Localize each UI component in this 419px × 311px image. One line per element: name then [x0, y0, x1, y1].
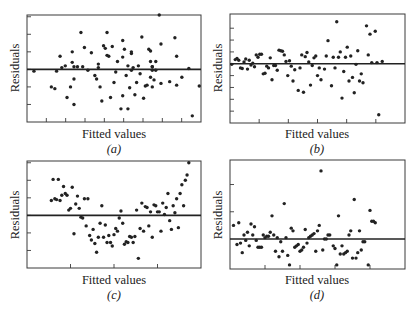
data-point [185, 173, 188, 176]
data-point [97, 236, 100, 239]
data-point [267, 235, 270, 238]
data-point [109, 96, 112, 99]
data-point [112, 233, 115, 236]
data-point [368, 209, 371, 212]
data-point [283, 53, 286, 56]
panel-a-ylabel: Residuals [8, 44, 22, 93]
plot-frame [27, 15, 201, 122]
data-point [377, 113, 380, 116]
data-point [175, 197, 178, 200]
data-point [297, 89, 300, 92]
plot-frame [230, 160, 405, 269]
data-point [360, 72, 363, 75]
data-point [51, 178, 54, 181]
data-point [339, 50, 342, 53]
data-point [340, 244, 343, 247]
data-point [319, 78, 322, 81]
data-point [104, 223, 107, 226]
data-point [281, 250, 284, 253]
data-point [107, 55, 110, 58]
data-point [149, 49, 152, 52]
data-point [64, 64, 67, 67]
data-point [133, 235, 136, 238]
data-point [237, 59, 240, 62]
data-point [151, 65, 154, 68]
data-point [321, 248, 324, 251]
data-point [50, 199, 53, 202]
data-point [178, 192, 181, 195]
panel-c-caption: (c) [107, 288, 121, 302]
data-point [242, 60, 245, 63]
data-point [71, 186, 74, 189]
panel-c: Residuals Fitted values (c) [8, 161, 201, 302]
data-point [249, 222, 252, 225]
data-point [119, 209, 122, 212]
data-point [244, 239, 247, 242]
data-point [131, 241, 134, 244]
data-point [263, 72, 266, 75]
data-point [302, 246, 305, 249]
data-point [351, 76, 354, 79]
data-point [337, 214, 340, 217]
data-point [76, 194, 79, 197]
data-point [288, 59, 291, 62]
panel-d-caption: (d) [310, 288, 325, 302]
panel-d: Residuals Fitted values (d) [211, 160, 405, 302]
data-point [175, 83, 178, 86]
data-point [276, 69, 279, 72]
data-point [304, 228, 307, 231]
data-point [83, 197, 86, 200]
data-point [95, 251, 98, 254]
data-point [124, 74, 127, 77]
data-point [180, 76, 183, 79]
data-point [65, 96, 68, 99]
data-point [330, 84, 333, 87]
data-point [138, 227, 141, 230]
data-point [102, 236, 105, 239]
data-point [286, 254, 289, 257]
data-point [191, 114, 194, 117]
data-point [154, 69, 157, 72]
data-point [138, 72, 141, 75]
data-point [246, 231, 249, 234]
data-point [159, 82, 162, 85]
data-point [368, 32, 371, 35]
data-point [105, 31, 108, 34]
data-point [361, 81, 364, 84]
data-point [112, 81, 115, 84]
data-point [147, 224, 150, 227]
data-point [284, 60, 287, 63]
data-point [326, 39, 329, 42]
data-point [363, 240, 366, 243]
data-point [347, 233, 350, 236]
data-point [163, 213, 166, 216]
data-point [374, 29, 377, 32]
data-point [161, 201, 164, 204]
data-point [158, 210, 161, 213]
data-point [140, 35, 143, 38]
data-point [91, 228, 94, 231]
data-point [142, 97, 145, 100]
data-point [256, 56, 259, 59]
data-point [349, 54, 352, 57]
data-point [253, 225, 256, 228]
data-point [346, 250, 349, 253]
data-point [346, 45, 349, 48]
data-point [288, 263, 291, 266]
data-point [171, 204, 174, 207]
data-point [128, 86, 131, 89]
data-point [314, 250, 317, 253]
data-point [130, 236, 133, 239]
data-point [165, 206, 168, 209]
panel-b-caption: (b) [310, 142, 325, 156]
data-point [90, 51, 93, 54]
data-point [55, 198, 58, 201]
data-point [86, 197, 89, 200]
data-point [111, 244, 114, 247]
data-point [312, 232, 315, 235]
data-point [60, 66, 63, 69]
data-point [65, 194, 68, 197]
data-point [100, 99, 103, 102]
data-point [269, 231, 272, 234]
data-point [354, 256, 357, 259]
